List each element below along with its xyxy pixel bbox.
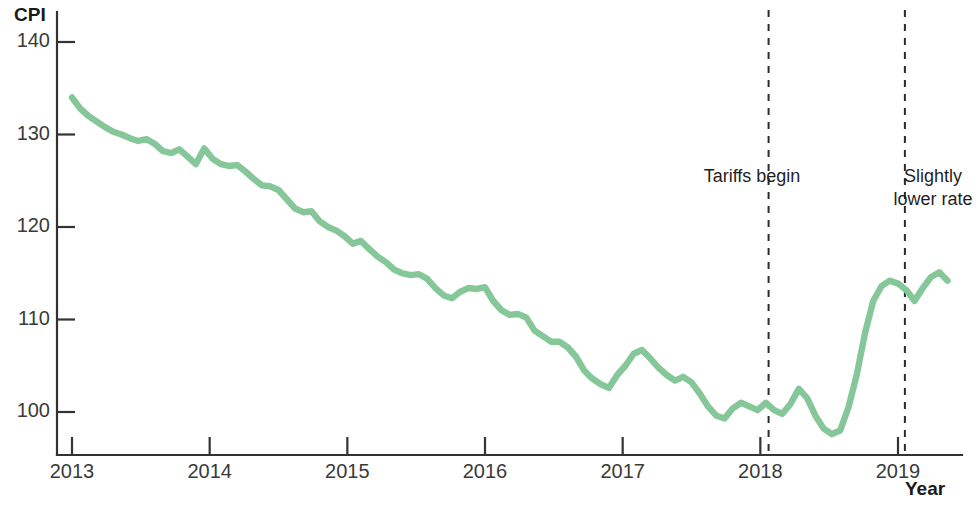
x-axis-ticks: [72, 437, 898, 455]
x-tick-label: 2013: [37, 460, 107, 483]
y-tick-label: 100: [2, 399, 50, 422]
x-tick-label: 2018: [725, 460, 795, 483]
x-tick-label: 2019: [863, 460, 933, 483]
y-tick-label: 110: [2, 307, 50, 330]
annotation-tariffs-begin: Tariffs begin: [652, 165, 852, 188]
x-tick-label: 2015: [312, 460, 382, 483]
y-tick-label: 130: [2, 122, 50, 145]
x-tick-label: 2017: [588, 460, 658, 483]
y-axis-title: CPI: [14, 4, 46, 26]
y-tick-label: 120: [2, 214, 50, 237]
x-tick-label: 2014: [175, 460, 245, 483]
x-tick-label: 2016: [450, 460, 520, 483]
y-tick-label: 140: [2, 29, 50, 52]
annotation-marker-lines: [769, 10, 905, 452]
annotation-slightly-lower-rate: Slightly lower rate: [838, 165, 977, 210]
cpi-series-line: [72, 98, 948, 435]
